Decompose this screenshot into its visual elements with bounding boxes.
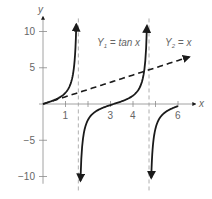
chart: 1346105−5−10 x y Y1 = tan x Y2 = x [0, 0, 212, 199]
labels: x y Y1 = tan x Y2 = x [37, 4, 205, 109]
x-tick-label: 1 [63, 110, 69, 121]
series-label-y2: Y2 = x [165, 37, 192, 49]
x-tick-label: 6 [175, 110, 181, 121]
tan-curve-branch [151, 106, 178, 178]
y-tick-label: −10 [18, 171, 35, 182]
y-tick-label: 5 [29, 62, 35, 73]
series-label-y1: Y1 = tan x [97, 37, 141, 49]
tan-curve-branch [43, 24, 76, 104]
x-axis-label: x [198, 98, 205, 109]
y-axis-label: y [37, 4, 44, 15]
tan-curve-branch [80, 26, 146, 181]
x-tick-label: 3 [108, 110, 114, 121]
x-tick-label: 4 [130, 110, 136, 121]
y-tick-label: 10 [24, 26, 36, 37]
y-tick-label: −5 [24, 135, 36, 146]
identity-line [43, 57, 189, 104]
